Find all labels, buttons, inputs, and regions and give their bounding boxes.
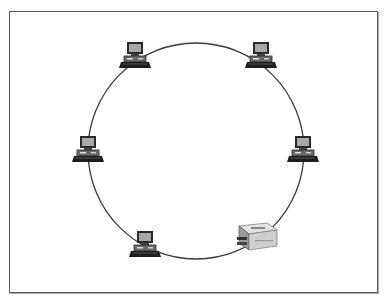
computer-icon[interactable] (129, 231, 161, 257)
computer-icon[interactable] (72, 136, 104, 162)
computer-icon[interactable] (287, 136, 319, 162)
printer-icon[interactable] (237, 223, 277, 250)
computer-icon[interactable] (245, 42, 277, 68)
ring-topology-diagram (0, 0, 386, 297)
